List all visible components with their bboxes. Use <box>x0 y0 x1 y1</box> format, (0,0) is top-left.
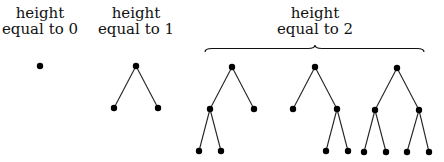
tree-node <box>334 106 340 112</box>
tree-node <box>372 107 378 113</box>
tree-node <box>37 63 43 69</box>
tree-node <box>426 149 432 155</box>
tree-edge <box>114 66 136 108</box>
curly-brace-icon <box>205 45 424 52</box>
tree-node <box>394 65 400 71</box>
tree-edge <box>419 110 429 152</box>
tree-diagram <box>0 0 444 162</box>
tree-node <box>290 106 296 112</box>
tree-node <box>323 148 329 154</box>
tree-edges <box>114 66 429 152</box>
tree-edge <box>407 110 419 152</box>
tree-node <box>383 149 389 155</box>
tree-node <box>251 106 257 112</box>
tree-node <box>229 64 235 70</box>
tree-edge <box>375 110 386 152</box>
tree-edge <box>326 109 337 151</box>
tree-edge <box>293 67 315 109</box>
tree-edge <box>315 67 337 109</box>
tree-node <box>416 107 422 113</box>
tree-node <box>312 64 318 70</box>
tree-edge <box>210 67 232 109</box>
tree-node <box>404 149 410 155</box>
tree-node <box>207 106 213 112</box>
tree-edge <box>136 66 158 108</box>
tree-edge <box>364 110 375 152</box>
tree-edge <box>375 68 397 110</box>
tree-edge <box>210 109 221 151</box>
tree-node <box>345 148 351 154</box>
tree-edge <box>232 67 254 109</box>
tree-node <box>361 149 367 155</box>
tree-nodes <box>37 63 432 155</box>
tree-node <box>155 105 161 111</box>
tree-node <box>218 148 224 154</box>
tree-node <box>133 63 139 69</box>
tree-edge <box>397 68 419 110</box>
tree-edge <box>337 109 348 151</box>
tree-node <box>111 105 117 111</box>
tree-node <box>196 148 202 154</box>
tree-edge <box>199 109 210 151</box>
